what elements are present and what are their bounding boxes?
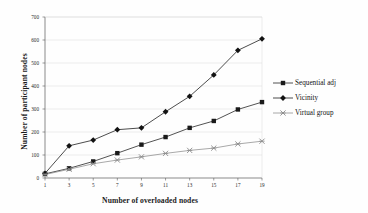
legend-label: Virtual group [294,109,334,117]
data-point-diamond [280,95,286,101]
data-point-square [212,119,216,123]
square-marker [91,159,95,163]
square-marker [115,151,119,155]
y-tick-label: 200 [23,129,39,135]
y-tick-marks [43,17,46,178]
x-tick-marks [45,178,262,181]
square-marker [139,142,143,146]
data-point-diamond [259,36,265,42]
data-point-square [281,80,285,84]
diamond-marker [114,127,120,133]
x-tick-label: 19 [254,182,270,188]
diamond-icon [272,91,294,105]
x-tick-label: 13 [182,182,198,188]
diamond-marker [280,95,286,101]
y-tick-label: 100 [23,152,39,158]
data-point-diamond [139,125,145,131]
grid-lines [45,17,262,155]
legend-item-square: Sequential adj [272,75,366,90]
data-point-square [115,151,119,155]
x-tick-label: 17 [230,182,246,188]
data-point-square [139,142,143,146]
x-tick-label: 5 [85,182,101,188]
diamond-marker [163,109,169,115]
axes [45,17,262,178]
cross-icon [272,106,294,120]
chart-figure: Number of participant nodes Number of ov… [0,0,368,213]
data-point-cross [115,157,120,162]
legend-label: Vicinity [294,94,318,102]
legend-item-cross: Virtual group [272,105,366,120]
x-tick-label: 1 [37,182,53,188]
square-marker [236,107,240,111]
y-tick-label: 400 [23,83,39,89]
y-tick-label: 700 [23,14,39,20]
data-point-square [91,159,95,163]
series-0 [43,100,264,176]
series-line [45,141,262,174]
data-point-cross [211,146,216,151]
x-tick-label: 3 [61,182,77,188]
y-tick-label: 500 [23,60,39,66]
diamond-marker [90,137,96,143]
data-point-diamond [163,109,169,115]
legend-label: Sequential adj [294,79,336,87]
data-point-cross [280,110,285,115]
x-tick-label: 11 [158,182,174,188]
x-tick-label: 15 [206,182,222,188]
x-tick-label: 7 [109,182,125,188]
y-tick-label: 600 [23,37,39,43]
series-line [45,102,262,174]
data-point-cross [187,148,192,153]
data-point-square [260,100,264,104]
data-point-square [187,126,191,130]
square-marker [260,100,264,104]
square-icon [272,76,294,90]
square-marker [212,119,216,123]
square-marker [163,135,167,139]
x-axis-title: Number of overloaded nodes [0,196,300,205]
data-point-cross [235,141,240,146]
diamond-marker [259,36,265,42]
data-point-diamond [114,127,120,133]
data-point-square [236,107,240,111]
y-tick-label: 300 [23,106,39,112]
legend-item-diamond: Vicinity [272,90,366,105]
square-marker [281,80,285,84]
square-marker [187,126,191,130]
y-tick-label: 0 [23,175,39,181]
chart-legend: Sequential adjVicinityVirtual group [272,75,366,120]
diamond-marker [139,125,145,131]
data-point-square [163,135,167,139]
series-line [45,39,262,174]
x-tick-label: 9 [133,182,149,188]
data-point-diamond [90,137,96,143]
